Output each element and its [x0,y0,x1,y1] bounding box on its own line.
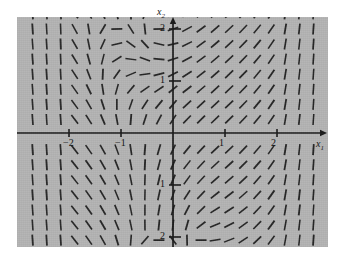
x-axis-label: x1 [316,139,324,152]
figure-root: x1 x2 −2−1122112 [0,0,346,263]
y-axis-label: x2 [157,7,165,20]
x-tick-label: 1 [219,138,224,148]
axes-svg [17,17,328,247]
x-tick-label: 2 [271,138,276,148]
x-axis-label-sub: 1 [320,144,324,152]
direction-field-plot [17,17,328,247]
y-tick-label: 2 [160,23,165,33]
y-tick-label: 1 [160,179,165,189]
y-tick-label: 1 [160,75,165,85]
x-tick-label: −2 [63,138,74,148]
y-axis-label-sub: 2 [161,12,165,20]
x-tick-label: −1 [115,138,126,148]
y-tick-label: 2 [160,231,165,241]
